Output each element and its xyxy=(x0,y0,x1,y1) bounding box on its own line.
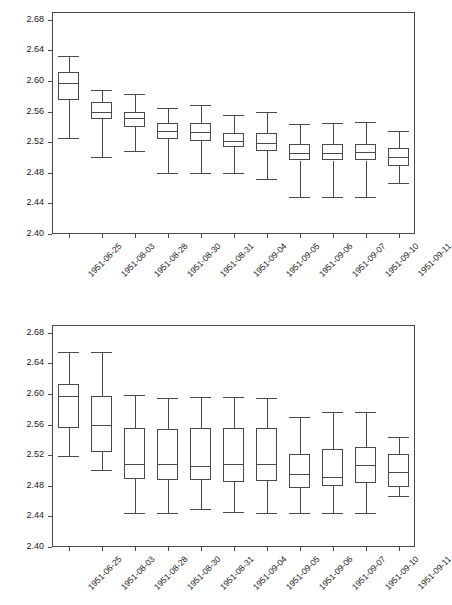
whisker-cap-lower xyxy=(190,173,210,174)
whisker-cap-lower xyxy=(322,513,342,514)
x-axis-tick-mark xyxy=(366,234,367,238)
y-axis-tick-label: 2.44 xyxy=(10,197,44,207)
whisker-upper xyxy=(399,437,400,454)
whisker-upper xyxy=(333,123,334,144)
whisker-cap-upper xyxy=(223,397,243,398)
median-line xyxy=(58,83,78,84)
x-axis-tick-label: 1951-09-11 xyxy=(415,241,452,278)
median-line xyxy=(157,131,177,132)
box-iqr xyxy=(58,72,78,100)
whisker-cap-upper xyxy=(124,395,144,396)
whisker-cap-upper xyxy=(256,112,276,113)
x-axis-tick-label: 1951-08-30 xyxy=(184,241,222,279)
y-axis-tick-mark xyxy=(48,394,52,395)
box-iqr xyxy=(124,112,144,127)
whisker-cap-lower xyxy=(157,513,177,514)
whisker-cap-upper xyxy=(91,90,111,91)
whisker-cap-lower xyxy=(256,513,276,514)
x-axis-tick-mark xyxy=(102,234,103,238)
x-axis-tick-mark xyxy=(69,547,70,551)
box-iqr xyxy=(124,428,144,479)
box-iqr xyxy=(58,384,78,428)
whisker-lower xyxy=(267,151,268,179)
whisker-upper xyxy=(399,131,400,148)
y-axis-tick-label: 2.44 xyxy=(10,510,44,520)
x-axis-tick-mark xyxy=(201,547,202,551)
whisker-cap-lower xyxy=(289,513,309,514)
y-axis-tick-label: 2.64 xyxy=(10,44,44,54)
x-axis-tick-mark xyxy=(69,234,70,238)
x-axis-tick-mark xyxy=(135,234,136,238)
whisker-lower xyxy=(399,166,400,184)
x-axis-tick-label: 1951-08-31 xyxy=(217,554,255,592)
median-line xyxy=(223,141,243,142)
y-axis-tick-mark xyxy=(48,81,52,82)
median-line xyxy=(388,472,408,473)
x-axis-tick-label: 1951-09-05 xyxy=(283,241,321,279)
median-line xyxy=(322,153,342,154)
box-iqr xyxy=(157,429,177,480)
x-axis-tick-mark xyxy=(366,547,367,551)
whisker-upper xyxy=(300,417,301,454)
x-axis-tick-mark xyxy=(300,234,301,238)
whisker-lower xyxy=(366,161,367,198)
x-axis-tick-mark xyxy=(300,547,301,551)
whisker-upper xyxy=(135,94,136,112)
box-iqr xyxy=(223,133,243,147)
whisker-upper xyxy=(267,398,268,427)
whisker-cap-lower xyxy=(388,496,408,497)
median-line xyxy=(388,157,408,158)
whisker-cap-lower xyxy=(58,138,78,139)
y-axis-tick-label: 2.48 xyxy=(10,480,44,490)
y-axis-tick-label: 2.60 xyxy=(10,388,44,398)
y-axis-tick-mark xyxy=(48,486,52,487)
x-axis-tick-label: 1951-09-05 xyxy=(283,554,321,592)
x-axis-tick-mark xyxy=(267,234,268,238)
median-line xyxy=(256,464,276,465)
y-axis-tick-mark xyxy=(48,516,52,517)
median-line xyxy=(322,477,342,478)
whisker-cap-lower xyxy=(289,197,309,198)
y-axis-tick-label: 2.60 xyxy=(10,75,44,85)
whisker-cap-upper xyxy=(355,122,375,123)
whisker-lower xyxy=(333,486,334,514)
y-axis-tick-label: 2.52 xyxy=(10,136,44,146)
whisker-lower xyxy=(201,141,202,173)
median-line xyxy=(124,118,144,119)
whisker-cap-upper xyxy=(388,437,408,438)
whisker-lower xyxy=(102,452,103,470)
whisker-lower xyxy=(201,480,202,508)
x-axis-tick-label: 1951-09-06 xyxy=(316,554,354,592)
y-axis-tick-mark xyxy=(48,363,52,364)
x-axis-tick-label: 1951-09-11 xyxy=(415,554,452,591)
whisker-lower xyxy=(168,480,169,513)
y-axis-tick-mark xyxy=(48,203,52,204)
whisker-cap-lower xyxy=(355,197,375,198)
x-axis-tick-label: 1951-09-10 xyxy=(382,241,420,279)
median-line xyxy=(91,112,111,113)
x-axis-tick-label: 1951-09-04 xyxy=(250,554,288,592)
whisker-cap-lower xyxy=(124,513,144,514)
y-axis-tick-mark xyxy=(48,20,52,21)
box-iqr xyxy=(289,454,309,488)
whisker-lower xyxy=(300,488,301,513)
whisker-lower xyxy=(333,161,334,198)
median-line xyxy=(256,143,276,144)
x-axis-tick-label: 1951-08-30 xyxy=(184,554,222,592)
whisker-cap-lower xyxy=(91,157,111,158)
whisker-upper xyxy=(168,108,169,123)
whisker-cap-lower xyxy=(91,470,111,471)
y-axis-tick-mark xyxy=(48,50,52,51)
whisker-upper xyxy=(69,352,70,384)
x-axis-tick-label: 1951-09-10 xyxy=(382,554,420,592)
x-axis-tick-label: 1951-09-06 xyxy=(316,241,354,279)
median-line xyxy=(157,464,177,465)
whisker-cap-lower xyxy=(223,512,243,513)
x-axis-tick-label: 1951-09-07 xyxy=(349,241,387,279)
whisker-cap-lower xyxy=(223,173,243,174)
median-line xyxy=(190,132,210,133)
x-axis-tick-label: 1951-08-03 xyxy=(118,241,156,279)
x-axis-tick-label: 1951-09-07 xyxy=(349,554,387,592)
x-axis-tick-mark xyxy=(267,547,268,551)
